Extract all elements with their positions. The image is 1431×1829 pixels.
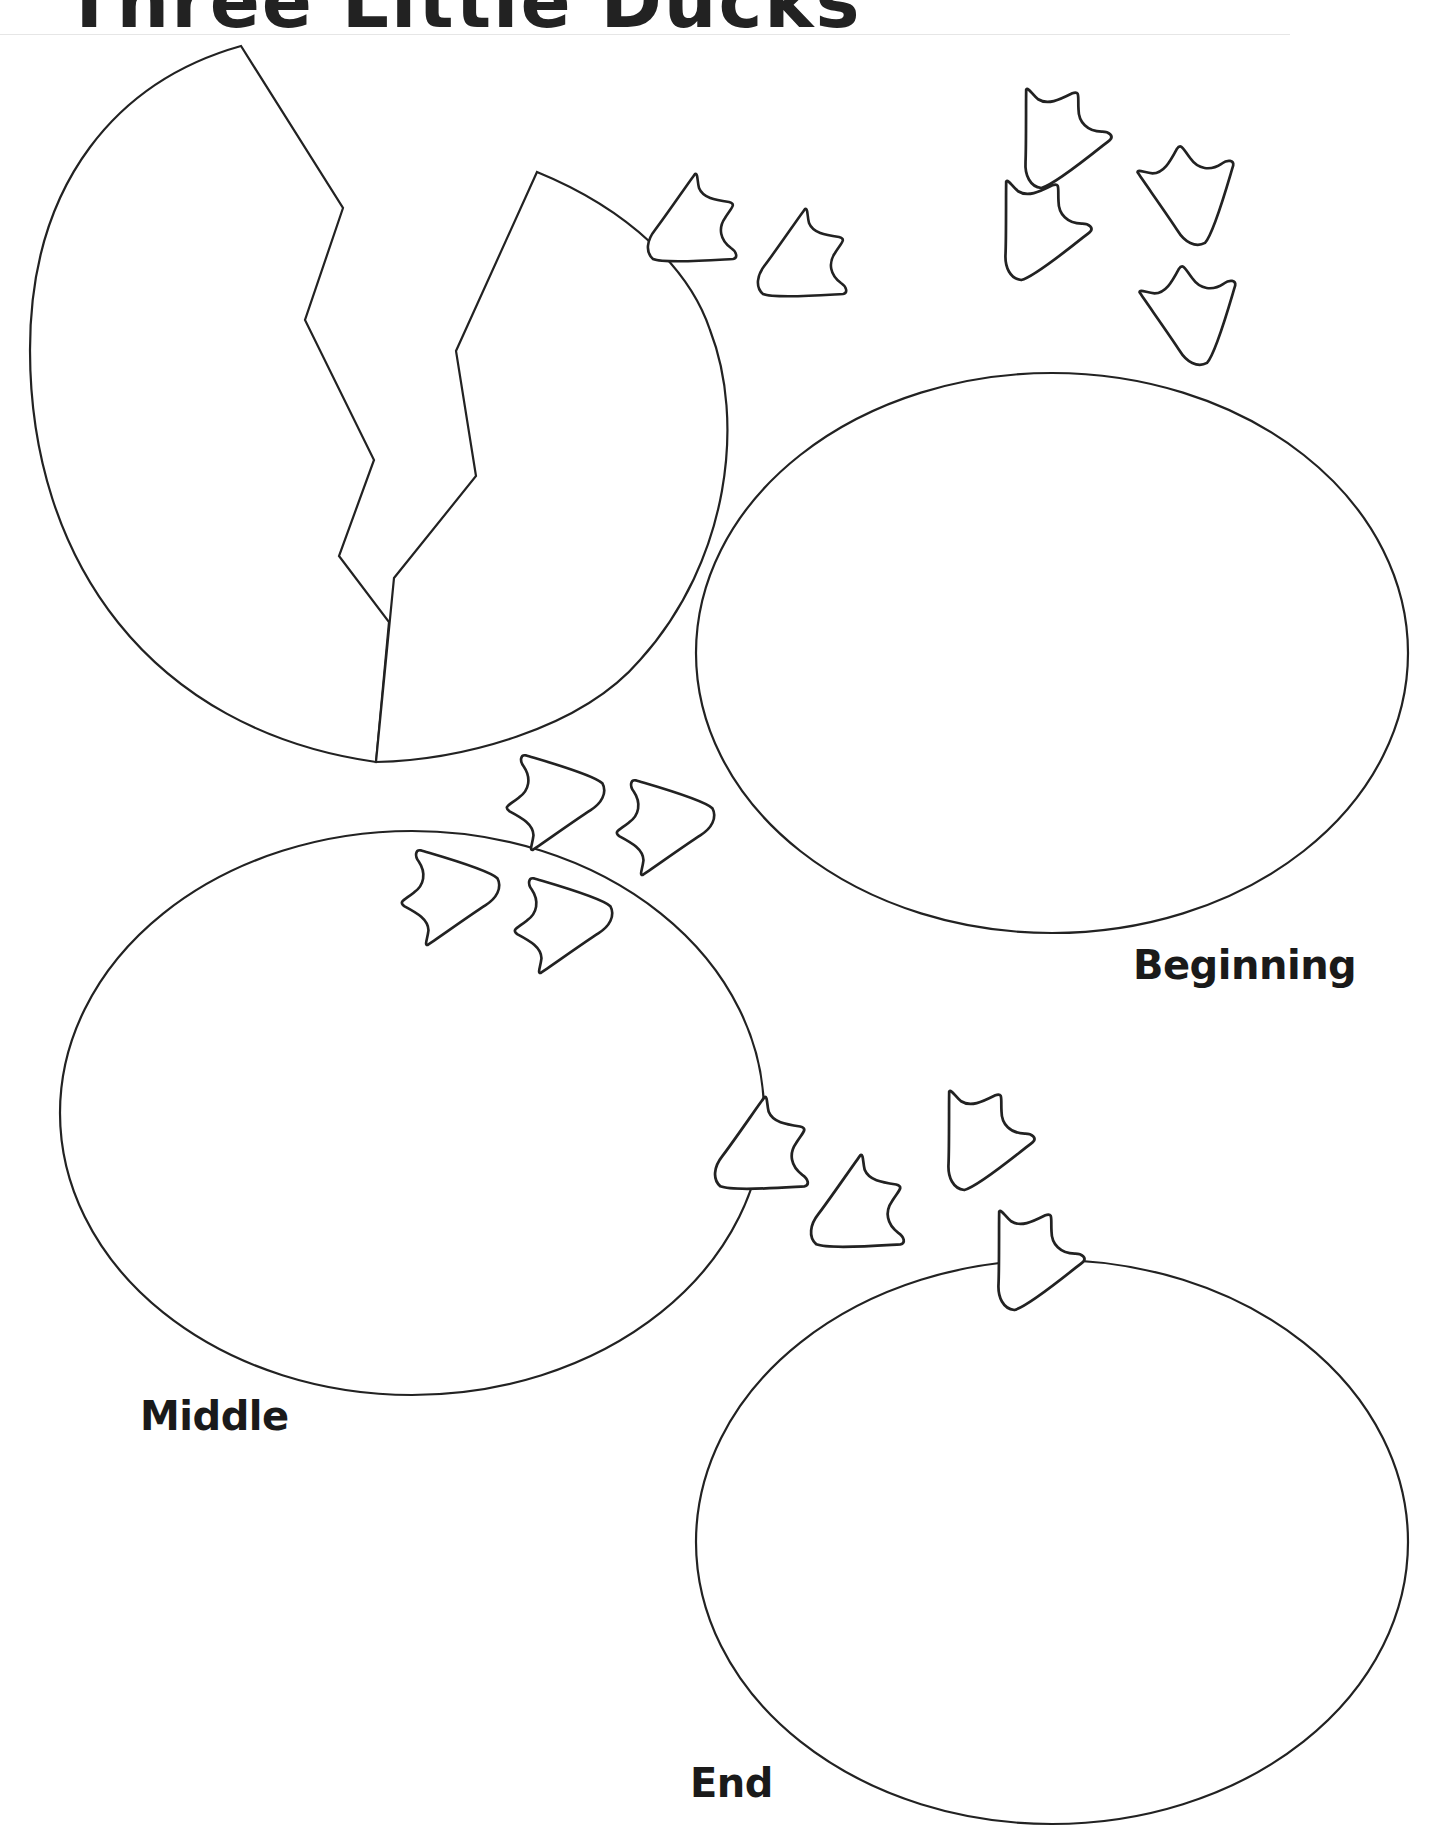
end-writing-area[interactable]	[716, 1280, 1388, 1804]
duck-footprint-icon	[648, 174, 736, 262]
duck-footprint-icon	[909, 1067, 1038, 1195]
duck-footprint-icon	[986, 65, 1115, 193]
duck-footprint-icon	[758, 209, 846, 297]
middle-writing-area[interactable]	[80, 851, 744, 1375]
beginning-writing-area[interactable]	[716, 393, 1388, 913]
duck-footprint-icon	[603, 777, 718, 892]
duck-footprint-icon	[493, 752, 608, 867]
duck-footprint-icon	[1123, 252, 1239, 368]
duck-footprint-icon	[811, 1155, 904, 1247]
label-middle: Middle	[140, 1393, 289, 1439]
label-end: End	[690, 1760, 773, 1806]
label-beginning: Beginning	[1133, 942, 1356, 988]
duck-footprint-icon	[1121, 132, 1237, 248]
cracked-egg-icon	[30, 46, 727, 762]
egg-shell-left	[30, 46, 389, 762]
